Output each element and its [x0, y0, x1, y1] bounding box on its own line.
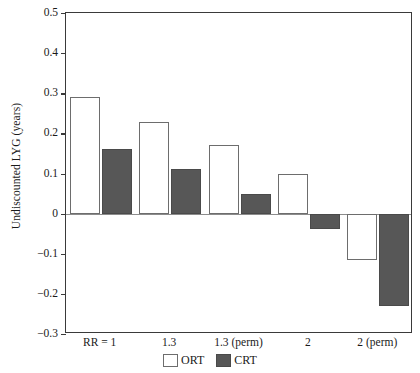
y-tick-8: [61, 334, 66, 335]
y-tick-label-1: 0.4: [10, 46, 58, 58]
y-tick-5: [61, 214, 66, 215]
y-tick-2: [61, 93, 66, 94]
legend-item-crt: CRT: [216, 353, 257, 368]
bar-ort-1: [139, 122, 169, 213]
y-tick-1: [61, 53, 66, 54]
y-tick-6: [61, 254, 66, 255]
y-tick-label-4: 0.1: [10, 167, 58, 179]
bar-crt-0: [102, 149, 132, 213]
white-square-icon: [163, 354, 178, 367]
x-axis-label-4: 2 (perm): [357, 336, 397, 348]
chart-figure: Undiscounted LYG (years) 0.50.40.30.20.1…: [0, 0, 420, 373]
y-tick-0: [61, 13, 66, 14]
x-axis-label-1: 1.3: [162, 336, 176, 348]
y-tick-4: [61, 174, 66, 175]
y-tick-label-3: 0.2: [10, 126, 58, 138]
x-axis-label-3: 2: [305, 336, 311, 348]
bar-ort-3: [278, 174, 308, 214]
legend-label-ort: ORT: [181, 353, 204, 368]
bar-ort-4: [347, 214, 377, 260]
y-tick-3: [61, 133, 66, 134]
x-axis-label-2: 1.3 (perm): [214, 336, 263, 348]
y-tick-label-2: 0.3: [10, 86, 58, 98]
y-tick-label-5: 0: [10, 207, 58, 219]
y-tick-label-6: −0.1: [10, 247, 58, 259]
chart-legend: ORTCRT: [0, 353, 420, 368]
plot-area: [65, 12, 412, 333]
y-tick-label-8: −0.3: [10, 327, 58, 339]
legend-item-ort: ORT: [163, 353, 204, 368]
bar-crt-1: [171, 169, 201, 213]
y-tick-label-7: −0.2: [10, 287, 58, 299]
bar-ort-2: [209, 145, 239, 213]
y-tick-label-0: 0.5: [10, 6, 58, 18]
bar-crt-4: [379, 214, 409, 306]
y-tick-7: [61, 294, 66, 295]
bar-crt-2: [241, 194, 271, 214]
bar-crt-3: [310, 214, 340, 229]
legend-label-crt: CRT: [234, 353, 257, 368]
bar-ort-0: [70, 97, 100, 213]
dark-square-icon: [216, 354, 231, 367]
x-axis-label-0: RR = 1: [83, 336, 116, 348]
